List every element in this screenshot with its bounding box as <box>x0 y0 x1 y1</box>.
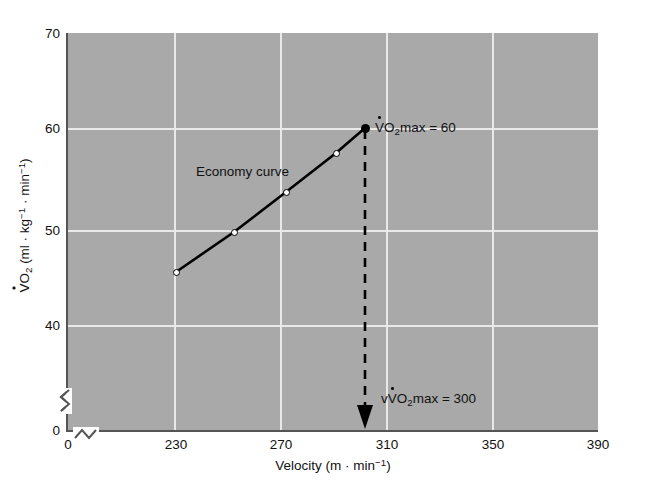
chart-figure: Economy curve VO2max = 60 vVO2max = 300 … <box>0 0 652 490</box>
vvo2max-tail: max = 300 <box>413 391 476 406</box>
dropline-arrowhead-icon <box>357 405 373 429</box>
x-axis-title-exponent: −1 <box>375 457 386 468</box>
y-tick-label-0: 0 <box>52 423 60 438</box>
data-point-marker <box>173 269 180 276</box>
x-axis-title-tail: ) <box>386 458 391 473</box>
x-tick-label-270: 270 <box>270 437 293 452</box>
plot-area: Economy curve VO2max = 60 vVO2max = 300 <box>68 33 598 430</box>
vvo2max-lead: v <box>381 391 388 406</box>
y-axis-title-units-a: (ml · kg <box>17 219 32 268</box>
x-tick-label-390: 390 <box>587 437 610 452</box>
annotation-vvo2max: vVO2max = 300 <box>381 391 476 406</box>
y-axis-line <box>66 33 68 432</box>
y-tick-label-60: 60 <box>45 121 60 136</box>
v-dot-diacritic-icon <box>378 116 381 119</box>
y-axis-title-exponent-a: −1 <box>15 208 26 219</box>
vo2max-v-dot: V <box>375 120 384 135</box>
v-dot-diacritic-icon <box>13 287 16 290</box>
y-axis-title-subscript: 2 <box>22 268 33 273</box>
data-layer <box>68 33 598 430</box>
vo2max-tail: max = 60 <box>400 120 456 135</box>
y-tick-label-50: 50 <box>45 223 60 238</box>
data-point-marker <box>231 229 238 236</box>
x-axis-line <box>66 430 598 432</box>
data-point-marker <box>283 189 290 196</box>
vvo2max-subscript: 2 <box>407 397 412 408</box>
annotation-vo2max: VO2max = 60 <box>375 120 456 135</box>
data-point-marker <box>333 150 340 157</box>
x-axis-title: Velocity (m · min−1) <box>68 458 598 473</box>
x-axis-title-text: Velocity (m · min <box>275 458 375 473</box>
vo2max-subscript: 2 <box>395 126 400 137</box>
v-dot-diacritic-icon <box>391 387 394 390</box>
x-tick-label-0: 0 <box>64 437 72 452</box>
y-axis-title-units-b: · min <box>17 174 32 208</box>
x-axis-break-icon <box>73 421 99 443</box>
x-tick-label-310: 310 <box>376 437 399 452</box>
vo2max-o: O <box>384 120 395 135</box>
x-tick-label-350: 350 <box>482 437 505 452</box>
y-axis-title-exponent-b: −1 <box>15 163 26 174</box>
y-axis-title: VO2 (ml · kg−1 · min−1) <box>17 26 32 426</box>
vvo2max-o: O <box>397 391 408 406</box>
y-axis-title-v-dot: V <box>17 284 32 293</box>
y-tick-label-40: 40 <box>45 318 60 333</box>
y-axis-title-o: O <box>17 273 32 284</box>
x-tick-label-230: 230 <box>165 437 188 452</box>
vvo2max-v-dot: V <box>388 391 397 406</box>
annotation-economy-curve: Economy curve <box>196 164 289 179</box>
y-tick-label-70: 70 <box>45 26 60 41</box>
data-point-marker-vo2max <box>361 124 370 133</box>
